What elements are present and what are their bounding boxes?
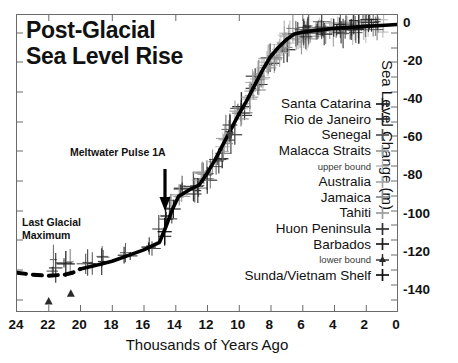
y-tick--20: -20 [403,53,423,68]
legend-item-malacca-straits[interactable]: Malacca Straits [214,143,390,159]
legend-item-tahiti[interactable]: Tahiti [214,205,390,221]
x-tick-2: 2 [351,317,377,332]
plus-icon [375,268,390,282]
legend-item-huon-peninsula[interactable]: Huon Peninsula [214,221,390,237]
legend-item-label: Sunda/Vietnam Shelf [244,268,375,283]
legend-item-label: upper bound [318,161,375,172]
legend-item-sunda-vietnam-shelf[interactable]: Sunda/Vietnam Shelf [214,268,390,284]
error-bar-cross [83,249,93,276]
y-tick--120: -120 [403,244,430,259]
legend-item-label: Australia [318,174,375,189]
y-tick--60: -60 [403,129,423,144]
plus-icon [375,159,390,173]
plus-icon [375,144,390,158]
x-tick-20: 20 [66,317,92,332]
x-tick-16: 16 [130,317,156,332]
x-tick-12: 12 [193,317,219,332]
last-glacial-maximum-curve [17,269,80,276]
x-tick-18: 18 [98,317,124,332]
y-tick--80: -80 [403,167,423,182]
y-tick--40: -40 [403,91,423,106]
plus-icon [375,206,390,220]
x-tick-22: 22 [35,317,61,332]
legend-item-label: Rio de Janeiro [284,112,375,127]
legend-item-senegal[interactable]: Senegal [214,127,390,143]
axis-ticks-left [17,33,23,300]
y-tick--100: -100 [403,206,430,221]
lgm-line-2: Maximum [22,229,81,242]
legend-item-lower-bound[interactable]: lower bound [214,252,390,268]
annotation-last-glacial-maximum: Last Glacial Maximum [22,216,81,241]
x-tick-6: 6 [288,317,314,332]
x-tick-0: 0 [383,317,409,332]
annotation-meltwater-pulse: Meltwater Pulse 1A [70,146,166,159]
title-line-2: Sea Level Rise [26,44,256,70]
page-title: Post-Glacial Sea Level Rise [26,18,256,70]
legend-item-label: lower bound [319,254,375,265]
legend-item-label: Jamaica [321,190,375,205]
error-bar-cross [49,253,63,283]
legend-item-label: Malacca Straits [279,143,375,158]
x-tick-8: 8 [256,317,282,332]
x-tick-10: 10 [225,317,251,332]
plus-icon [375,128,390,142]
x-axis-label: Thousands of Years Ago [16,336,398,353]
lgm-line-1: Last Glacial [22,216,81,229]
title-line-1: Post-Glacial [26,18,256,44]
axis-ticks-bottom [49,305,367,311]
legend-item-jamaica[interactable]: Jamaica [214,190,390,206]
x-tick-4: 4 [320,317,346,332]
legend-item-label: Huon Peninsula [276,221,375,236]
meltwater-pulse-arrow-icon [160,169,171,211]
y-tick-0: 0 [403,15,411,30]
legend-item-australia[interactable]: Australia [214,174,390,190]
x-tick-14: 14 [161,317,187,332]
triangle-plus-icon [375,253,390,267]
triangle-marker [45,297,53,305]
legend-item-label: Santa Catarina [281,96,375,111]
plus-icon [375,222,390,236]
triangle-marker [67,289,75,297]
plus-icon [375,190,390,204]
figure-root: Post-Glacial Sea Level Rise Meltwater Pu… [0,0,458,363]
plus-icon [375,112,390,126]
legend-item-label: Barbados [313,237,375,252]
x-tick-24: 24 [3,317,29,332]
legend-item-santa-catarina[interactable]: Santa Catarina [214,96,390,112]
legend-item-label: Tahiti [339,205,375,220]
legend: Santa CatarinaRio de JaneiroSenegalMalac… [214,96,390,283]
plus-icon [375,237,390,251]
legend-item-upper-bound[interactable]: upper bound [214,158,390,174]
legend-item-rio-de-janeiro[interactable]: Rio de Janeiro [214,112,390,128]
y-tick--140: -140 [403,282,430,297]
legend-item-label: Senegal [321,127,375,142]
legend-item-barbados[interactable]: Barbados [214,236,390,252]
plus-icon [375,97,390,111]
lower-bound-triangles [45,289,75,304]
plus-icon [375,175,390,189]
